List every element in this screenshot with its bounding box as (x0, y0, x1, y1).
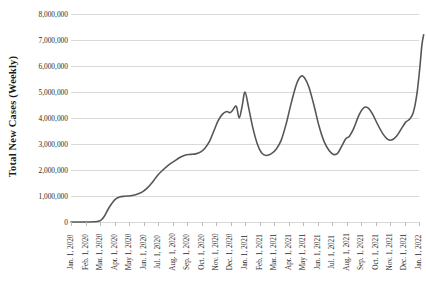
x-tick-label: Feb. 1, 2020 (80, 226, 92, 282)
x-tick-label: Jun. 1, 2020 (138, 226, 150, 282)
x-tick-label-text: Dec. 1, 2020 (227, 234, 235, 271)
x-tick-mark (419, 222, 420, 226)
x-tick-label-text: Jan. 1, 2020 (67, 235, 75, 270)
x-tick-label-text: Oct. 1, 2021 (372, 234, 380, 270)
y-tick-label: 7,000,000 (20, 36, 68, 45)
x-tick-label-text: Nov. 1, 2020 (212, 233, 220, 270)
x-tick-label-text: Nov. 1, 2021 (386, 233, 394, 270)
x-tick-mark (390, 222, 391, 226)
x-tick-label: Apr. 1, 2020 (109, 226, 121, 282)
x-tick-label: Dec. 1, 2020 (225, 226, 237, 282)
x-tick-label: Nov. 1, 2021 (384, 226, 396, 282)
x-tick-mark (274, 222, 275, 226)
x-tick-mark (260, 222, 261, 226)
x-tick-mark (231, 222, 232, 226)
x-tick-label: Jul. 1, 2020 (152, 226, 164, 282)
x-tick-label-text: Sep. 1, 2020 (183, 234, 191, 270)
series-path (71, 35, 424, 222)
x-axis-tick-labels: Jan. 1, 2020Feb. 1, 2020Mar. 1, 2020Apr.… (71, 226, 419, 284)
line-chart-figure: Total New Cases (Weekly) 01,000,0002,000… (0, 0, 426, 286)
x-tick-label: Sep. 1, 2021 (355, 226, 367, 282)
x-tick-label: May 1, 2020 (123, 226, 135, 282)
y-tick-label: 5,000,000 (20, 88, 68, 97)
x-tick-mark (115, 222, 116, 226)
x-tick-label: Jan. 1, 2022 (413, 226, 425, 282)
x-tick-mark (173, 222, 174, 226)
x-tick-mark (303, 222, 304, 226)
x-tick-mark (71, 222, 72, 226)
x-tick-label-text: May 1, 2021 (299, 234, 307, 271)
x-tick-label-text: Jun. 1, 2020 (140, 234, 148, 269)
x-tick-label-text: Feb. 1, 2021 (256, 234, 264, 270)
x-tick-mark (202, 222, 203, 226)
x-tick-label-text: Mar. 1, 2021 (270, 234, 278, 271)
x-tick-label: Sep. 1, 2020 (181, 226, 193, 282)
x-tick-mark (144, 222, 145, 226)
x-tick-label-text: Apr. 1, 2020 (111, 234, 119, 270)
x-tick-label: Mar. 1, 2021 (268, 226, 280, 282)
x-tick-label: Aug. 1, 2021 (341, 226, 353, 282)
x-tick-label-text: Aug. 1, 2020 (169, 233, 177, 271)
x-tick-label: Feb. 1, 2021 (254, 226, 266, 282)
x-tick-mark (318, 222, 319, 226)
x-tick-label-text: May 1, 2020 (125, 234, 133, 271)
x-tick-label-text: Dec. 1, 2021 (401, 234, 409, 271)
y-tick-label: 2,000,000 (20, 166, 68, 175)
y-tick-label: 0 (20, 218, 68, 227)
x-tick-label: May 1, 2021 (297, 226, 309, 282)
x-tick-label: Apr. 1, 2021 (283, 226, 295, 282)
y-tick-label: 6,000,000 (20, 62, 68, 71)
x-tick-mark (245, 222, 246, 226)
x-tick-label-text: Aug. 1, 2021 (343, 233, 351, 271)
y-axis-title-label: Total New Cases (Weekly) (8, 55, 19, 176)
x-tick-label-text: Jul. 1, 2020 (154, 235, 162, 269)
x-tick-label: Aug. 1, 2020 (167, 226, 179, 282)
x-tick-label: Dec. 1, 2021 (399, 226, 411, 282)
y-tick-label: 3,000,000 (20, 140, 68, 149)
x-tick-mark (129, 222, 130, 226)
x-tick-label: Oct. 1, 2020 (196, 226, 208, 282)
plot-area (71, 14, 419, 222)
x-tick-label-text: Mar. 1, 2020 (96, 234, 104, 271)
x-tick-label: Oct. 1, 2021 (370, 226, 382, 282)
x-tick-label: Jul. 1, 2021 (326, 226, 338, 282)
y-tick-label: 1,000,000 (20, 192, 68, 201)
x-tick-label-text: Jun. 1, 2021 (314, 234, 322, 269)
x-tick-label: Jan. 1, 2020 (65, 226, 77, 282)
x-tick-label: Jan. 1, 2021 (239, 226, 251, 282)
x-tick-mark (361, 222, 362, 226)
x-tick-label: Jun. 1, 2021 (312, 226, 324, 282)
x-tick-mark (347, 222, 348, 226)
x-tick-mark (332, 222, 333, 226)
x-tick-mark (289, 222, 290, 226)
x-tick-mark (216, 222, 217, 226)
x-tick-label-text: Apr. 1, 2021 (285, 234, 293, 270)
series-line-total-new-cases-weekly (71, 14, 419, 222)
x-tick-mark (158, 222, 159, 226)
x-tick-label: Mar. 1, 2020 (94, 226, 106, 282)
x-tick-label-text: Jul. 1, 2021 (328, 235, 336, 269)
x-tick-mark (187, 222, 188, 226)
x-tick-label-text: Jan. 1, 2022 (415, 235, 423, 270)
x-tick-mark (86, 222, 87, 226)
y-axis-tick-labels: 01,000,0002,000,0003,000,0004,000,0005,0… (20, 14, 68, 230)
x-tick-label-text: Sep. 1, 2021 (357, 234, 365, 270)
x-tick-label-text: Jan. 1, 2021 (241, 235, 249, 270)
x-tick-label-text: Oct. 1, 2020 (198, 234, 206, 270)
y-tick-label: 4,000,000 (20, 114, 68, 123)
x-tick-mark (376, 222, 377, 226)
x-tick-mark (100, 222, 101, 226)
y-tick-label: 8,000,000 (20, 10, 68, 19)
x-tick-mark (405, 222, 406, 226)
x-tick-label-text: Feb. 1, 2020 (82, 234, 90, 270)
x-tick-label: Nov. 1, 2020 (210, 226, 222, 282)
